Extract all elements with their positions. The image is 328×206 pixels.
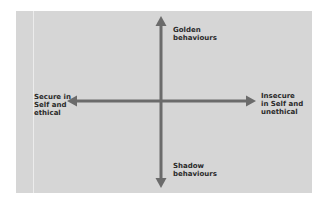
label-right: Insecure in Self and unethical <box>261 92 303 116</box>
label-bottom: Shadow behaviours <box>173 162 217 178</box>
label-top: Golden behaviours <box>173 26 217 42</box>
horizontal-axis <box>75 100 248 103</box>
arrow-down-icon <box>156 178 167 188</box>
label-left: Secure in Self and ethical <box>34 93 71 117</box>
arrow-up-icon <box>156 16 167 26</box>
arrow-right-icon <box>246 96 256 107</box>
